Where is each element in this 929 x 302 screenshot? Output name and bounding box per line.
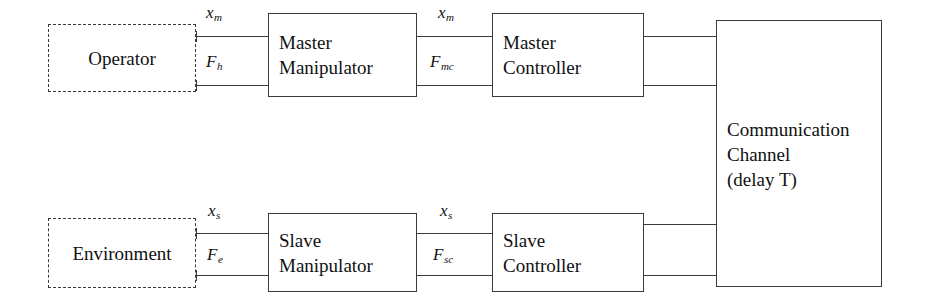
wire-tick-operator-position (196, 31, 197, 42)
signal-label-fe: Fe (207, 245, 222, 265)
block-communication-channel-label: Communication Channel (delay T) (727, 116, 849, 191)
block-operator-label: Operator (49, 46, 195, 71)
teleoperation-block-diagram: Operator xm Fh Master Manipulator xm Fmc… (0, 0, 929, 302)
signal-label-xs-controller: xs (440, 201, 452, 221)
wire-operator-master-force (196, 85, 268, 86)
wire-slave-controller-position (417, 233, 492, 234)
block-slave-controller: Slave Controller (492, 213, 644, 292)
block-environment: Environment (48, 218, 196, 288)
block-master-manipulator: Master Manipulator (268, 13, 417, 97)
block-environment-label: Environment (49, 241, 195, 266)
wire-master-controller-to-channel-upper (644, 36, 716, 37)
wire-tick-environment-position (196, 228, 197, 239)
block-communication-channel: Communication Channel (delay T) (716, 20, 882, 287)
wire-slave-controller-to-channel-upper (644, 224, 716, 225)
wire-slave-controller-force (417, 275, 492, 276)
block-slave-manipulator: Slave Manipulator (268, 213, 417, 292)
wire-master-controller-force (417, 85, 492, 86)
wire-tick-environment-force (196, 270, 197, 281)
signal-label-fh-operator: Fh (206, 52, 222, 72)
block-slave-controller-label: Slave Controller (503, 228, 581, 278)
wire-environment-slave-force (196, 275, 268, 276)
wire-master-controller-position (417, 36, 492, 37)
wire-master-controller-to-channel-lower (644, 85, 716, 86)
signal-label-fmc: Fmc (430, 52, 453, 72)
block-operator: Operator (48, 24, 196, 92)
block-slave-manipulator-label: Slave Manipulator (279, 228, 373, 278)
block-master-manipulator-label: Master Manipulator (279, 30, 373, 80)
signal-label-xm-operator: xm (206, 3, 222, 23)
signal-label-fsc: Fsc (433, 245, 453, 265)
wire-environment-slave-position (196, 233, 268, 234)
block-master-controller-label: Master Controller (503, 30, 581, 80)
signal-label-xm-controller: xm (438, 3, 454, 23)
wire-operator-master-position (196, 36, 268, 37)
block-master-controller: Master Controller (492, 13, 644, 97)
wire-tick-operator-force (196, 80, 197, 91)
signal-label-xs-environment: xs (208, 201, 220, 221)
wire-slave-controller-to-channel-lower (644, 275, 716, 276)
